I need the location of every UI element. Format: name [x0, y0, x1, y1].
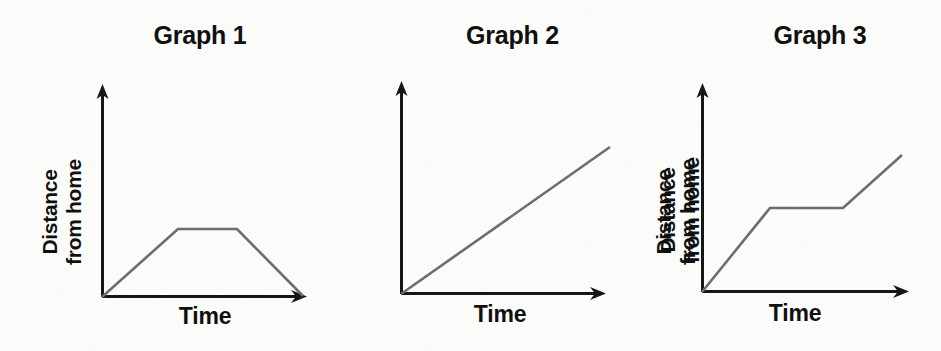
- graph-2-plot: [320, 0, 620, 351]
- graph-3-y-axis-label-line2: from home: [680, 130, 704, 290]
- graph-2-x-axis-label: Time: [440, 301, 560, 328]
- graph-panel-1: Graph 1 Distance from home Time: [0, 0, 320, 351]
- graph-1-y-axis-label-line1: Distance: [38, 132, 62, 292]
- graph-1-y-axis-label: Distance from home: [38, 132, 86, 292]
- graph-panel-3: Graph 3 Distance from home Time: [620, 0, 941, 351]
- graph-3-y-axis-label-line1: Distance: [656, 130, 680, 290]
- graph-panel-2: Graph 2 Distance from home Time: [320, 0, 620, 351]
- graph-3-data-line: [702, 155, 902, 292]
- graph-3-x-axis-label: Time: [735, 300, 855, 327]
- graph-3-y-axis-label: Distance from home: [656, 130, 704, 290]
- graph-2-data-line: [401, 147, 610, 294]
- graph-1-x-axis-label: Time: [145, 303, 265, 330]
- three-graphs-figure: Graph 1 Distance from home Time Graph 2: [0, 0, 941, 351]
- graph-1-data-line: [102, 229, 303, 297]
- graph-1-y-axis-label-line2: from home: [62, 132, 86, 292]
